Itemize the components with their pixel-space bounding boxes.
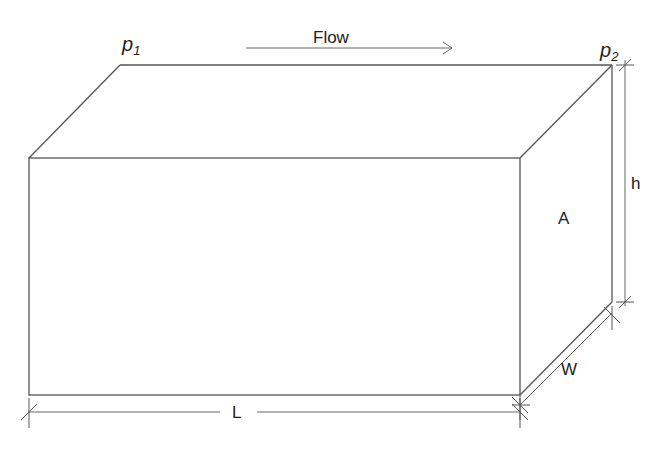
top-left-diagonal <box>29 65 120 158</box>
bottom-right-diagonal <box>520 302 612 395</box>
box <box>29 65 612 395</box>
width-label: W <box>561 360 577 379</box>
height-label: h <box>631 174 640 193</box>
front-face <box>29 158 520 395</box>
area-label: A <box>558 209 570 228</box>
top-right-diagonal <box>520 65 612 158</box>
p2-label: p2 <box>599 39 619 64</box>
length-dimension <box>21 398 528 428</box>
flow-label: Flow <box>313 28 350 47</box>
p1-label: p1 <box>121 33 140 58</box>
flow-arrow <box>246 42 452 54</box>
length-label: L <box>232 403 241 422</box>
channel-box-diagram: p1 Flow p2 h A W L <box>0 0 659 456</box>
